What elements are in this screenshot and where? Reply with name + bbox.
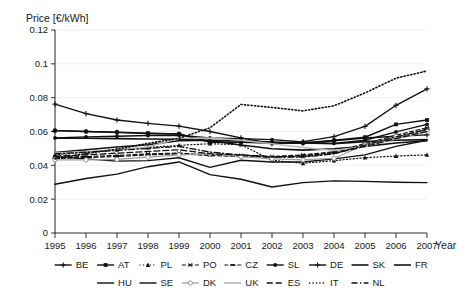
marker-square [104, 263, 108, 267]
legend-item-hu[interactable]: HU [97, 277, 132, 288]
marker-circle [146, 155, 150, 159]
marker-square [115, 130, 119, 134]
legend-label-cz: CZ [245, 259, 258, 270]
marker-circle [115, 157, 119, 161]
y-tick-label: 0 [43, 227, 48, 238]
y-axis: 00.020.040.060.080.10.12 [30, 24, 56, 238]
x-tick-label: 2006 [385, 240, 406, 251]
legend-item-sl[interactable]: SL [267, 259, 300, 270]
legend-label-es: ES [288, 277, 301, 288]
legend-label-dk: DK [203, 277, 217, 288]
legend-label-at: AT [118, 259, 130, 270]
marker-dot [394, 130, 398, 134]
x-tick-label: 2003 [292, 240, 313, 251]
y-tick-label: 0.06 [30, 126, 49, 137]
legend-item-at[interactable]: AT [97, 259, 130, 270]
legend-label-uk: UK [245, 277, 259, 288]
y-tick-label: 0.04 [30, 160, 49, 171]
legend-item-be[interactable]: BE [55, 259, 89, 270]
x-axis-title: Year [435, 239, 457, 251]
chart-canvas: 00.020.040.060.080.10.12Price [€/kWh]199… [0, 0, 474, 300]
marker-dot [270, 138, 274, 142]
marker-circle [177, 153, 181, 157]
x-tick-label: 2001 [230, 240, 251, 251]
legend-item-nl[interactable]: NL [352, 277, 385, 288]
legend: BEATPLPOCZSLDESKFRHUSEDKUKESITNL [55, 259, 428, 288]
legend-label-nl: NL [373, 277, 385, 288]
y-tick-label: 0.1 [35, 58, 48, 69]
x-axis: 1995199619971998199920002001200220032004… [44, 233, 437, 251]
series-line-hu [55, 162, 427, 187]
legend-item-se[interactable]: SE [140, 277, 174, 288]
legend-item-fr[interactable]: FR [394, 259, 428, 270]
legend-item-it[interactable]: IT [309, 277, 339, 288]
legend-label-sk: SK [373, 259, 386, 270]
legend-item-cz[interactable]: CZ [224, 259, 258, 270]
legend-label-pl: PL [161, 259, 173, 270]
series-hu [55, 162, 427, 187]
x-tick-label: 1995 [44, 240, 65, 251]
x-tick-label: 1997 [106, 240, 127, 251]
marker-circle [188, 281, 192, 285]
legend-item-de[interactable]: DE [309, 259, 343, 270]
marker-circle [332, 156, 336, 160]
legend-label-po: PO [203, 259, 217, 270]
marker-dot [146, 134, 150, 138]
legend-item-uk[interactable]: UK [224, 277, 259, 288]
x-tick-label: 2002 [261, 240, 282, 251]
legend-item-pl[interactable]: PL [140, 259, 173, 270]
x-tick-label: 2004 [323, 240, 344, 251]
legend-item-es[interactable]: ES [267, 277, 301, 288]
marker-square [84, 130, 88, 134]
series-group [52, 71, 429, 187]
legend-label-it: IT [330, 277, 339, 288]
y-tick-label: 0.02 [30, 194, 49, 205]
y-axis-title: Price [€/kWh] [26, 12, 89, 24]
legend-label-fr: FR [415, 259, 428, 270]
marker-square [425, 118, 429, 122]
legend-item-sk[interactable]: SK [352, 259, 386, 270]
marker-square [53, 129, 57, 133]
x-tick-label: 1998 [137, 240, 158, 251]
y-tick-label: 0.08 [30, 92, 49, 103]
marker-circle [84, 158, 88, 162]
price-per-kwh-line-chart: 00.020.040.060.080.10.12Price [€/kWh]199… [0, 0, 474, 300]
x-tick-label: 1999 [168, 240, 189, 251]
marker-dot [177, 133, 181, 137]
x-tick-label: 1996 [75, 240, 96, 251]
marker-circle [301, 158, 305, 162]
legend-label-be: BE [76, 259, 89, 270]
x-tick-label: 2005 [354, 240, 375, 251]
legend-label-de: DE [330, 259, 343, 270]
legend-label-sl: SL [288, 259, 300, 270]
marker-dot [425, 122, 429, 126]
legend-item-po[interactable]: PO [182, 259, 217, 270]
x-tick-label: 2000 [199, 240, 220, 251]
marker-dot [115, 134, 119, 138]
legend-label-se: SE [161, 277, 174, 288]
marker-dot [273, 263, 277, 267]
y-tick-label: 0.12 [30, 24, 49, 35]
legend-item-dk[interactable]: DK [182, 277, 217, 288]
legend-label-hu: HU [118, 277, 132, 288]
marker-square [394, 122, 398, 126]
